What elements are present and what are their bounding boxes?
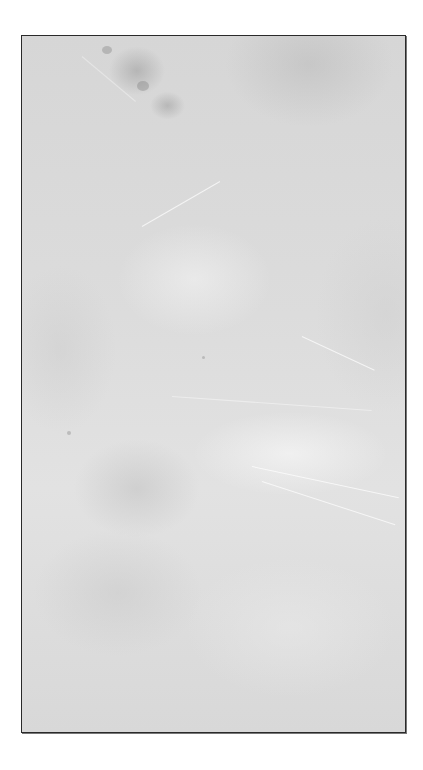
- surface-speck: [202, 356, 205, 359]
- surface-scratch: [142, 181, 220, 227]
- surface-speck: [67, 431, 71, 435]
- surface-speck: [137, 81, 149, 91]
- textured-photo-frame: [21, 35, 406, 733]
- surface-scratch: [82, 56, 136, 102]
- surface-scratch: [262, 481, 395, 525]
- surface-scratch: [302, 336, 375, 371]
- surface-scratch: [252, 466, 399, 498]
- surface-speck: [102, 46, 112, 54]
- surface-scratch: [172, 396, 372, 411]
